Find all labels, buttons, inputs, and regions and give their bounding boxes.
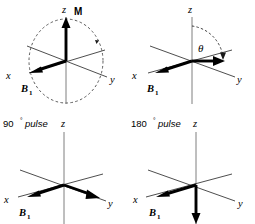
- figure-root: z M x y B 1 z x: [0, 0, 255, 224]
- vector-m-arrowhead-icon: [192, 213, 201, 224]
- vector-label-b1-subscript: 1: [157, 213, 161, 221]
- vector-label-b1-subscript: 1: [29, 89, 33, 97]
- axis-x: [146, 174, 232, 197]
- vector-b1-arrowhead-icon: [155, 67, 169, 74]
- vector-label-b1-subscript: 1: [155, 89, 159, 97]
- vector-label-b1-subscript: 1: [27, 213, 31, 221]
- axis-label-x: x: [131, 70, 137, 81]
- axis-label-z: z: [192, 118, 197, 129]
- vector-label-b1: B: [148, 207, 156, 218]
- axis-label-y: y: [107, 198, 113, 209]
- pulse-caption-value: 180: [131, 118, 147, 129]
- axis-label-z: z: [60, 118, 65, 129]
- vector-b1: [38, 61, 66, 70]
- panel-180-degree-pulse: 180 ° pulse z x y B 1: [128, 112, 255, 224]
- vector-b1: [164, 61, 192, 70]
- axis-label-y: y: [109, 74, 115, 85]
- rotation-arrowhead-icon: [95, 40, 99, 44]
- pulse-caption-degree: °: [20, 117, 23, 124]
- axis-label-z: z: [187, 4, 192, 15]
- panel-magnetization-tipped: z x y θ B 1: [128, 0, 255, 112]
- axis-label-y: y: [236, 74, 242, 85]
- vector-label-b1: B: [146, 83, 154, 94]
- vector-b1-arrowhead-icon: [29, 67, 43, 74]
- panel-magnetization-equilibrium: z M x y B 1: [0, 0, 127, 112]
- tip-angle-arrowhead-icon: [220, 53, 226, 61]
- angle-label-theta: θ: [198, 42, 204, 54]
- axis-label-x: x: [3, 194, 9, 205]
- vector-m-arrowhead-icon: [86, 190, 101, 200]
- axis-label-z: z: [61, 4, 66, 15]
- pulse-caption-degree: °: [153, 117, 156, 124]
- tip-angle-arc: [192, 26, 223, 57]
- axis-label-x: x: [132, 194, 138, 205]
- vector-m-arrowhead-icon: [62, 17, 71, 28]
- pulse-caption-word: pulse: [157, 118, 181, 129]
- vector-label-b1: B: [18, 207, 26, 218]
- pulse-caption-value: 90: [3, 118, 14, 129]
- panel-90-degree-pulse: 90 ° pulse z x y B 1: [0, 112, 127, 224]
- pulse-caption-word: pulse: [24, 118, 48, 129]
- axis-label-y: y: [237, 198, 243, 209]
- vector-label-b1: B: [20, 83, 28, 94]
- vector-m: [64, 185, 90, 194]
- vector-b1: [166, 185, 196, 194]
- vector-label-m: M: [74, 6, 82, 17]
- vector-b1: [36, 185, 64, 194]
- axis-label-x: x: [5, 70, 11, 81]
